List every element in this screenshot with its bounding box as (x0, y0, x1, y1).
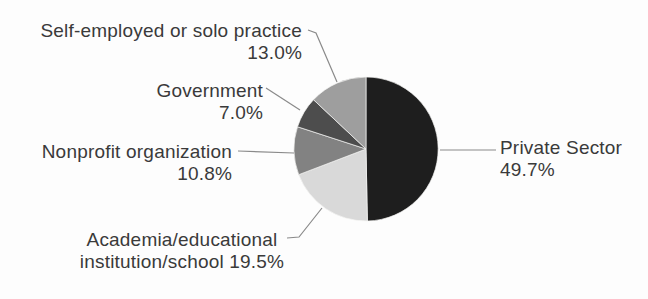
leader-line-government (266, 88, 300, 110)
callout-private: Private Sector 49.7% (500, 137, 640, 181)
pie (294, 77, 438, 221)
callout-private-label: Private Sector (500, 137, 640, 159)
callout-self-employed: Self-employed or solo practice 13.0% (20, 20, 302, 64)
callout-academia-value: institution/school 19.5% (40, 251, 324, 273)
callout-self-employed-label: Self-employed or solo practice (20, 20, 302, 42)
callout-government-label: Government (20, 80, 263, 102)
callout-academia: Academia/educational institution/school … (40, 229, 324, 273)
callout-private-value: 49.7% (500, 159, 640, 181)
callout-nonprofit-value: 10.8% (20, 163, 232, 185)
pie-slice-private-sector (366, 77, 438, 221)
callout-nonprofit-label: Nonprofit organization (20, 141, 232, 163)
callout-self-employed-value: 13.0% (20, 42, 302, 64)
callout-nonprofit: Nonprofit organization 10.8% (20, 141, 232, 185)
callout-government: Government 7.0% (20, 80, 263, 124)
callout-government-value: 7.0% (20, 102, 263, 124)
callout-academia-label: Academia/educational (40, 229, 324, 251)
pie-chart-figure: Self-employed or solo practice 13.0% Gov… (0, 0, 648, 299)
leader-line-nonprofit (238, 151, 294, 153)
leader-line-self-employed (308, 30, 337, 82)
